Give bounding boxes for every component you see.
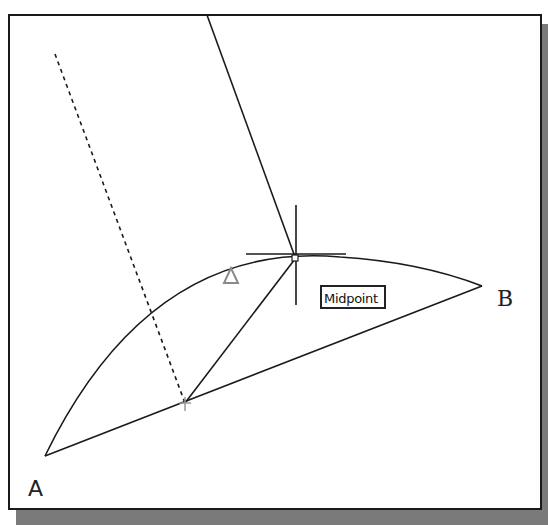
osnap-tooltip: Midpoint (320, 285, 386, 309)
arc-a-b[interactable] (45, 256, 482, 456)
point-label-b: B (497, 286, 513, 311)
rubber-band-line (207, 15, 295, 257)
point-label-a: A (28, 476, 43, 501)
chord-a-b[interactable] (45, 286, 482, 456)
drawing-canvas[interactable]: A B (0, 0, 548, 525)
dashed-bisector-line[interactable] (55, 54, 185, 403)
